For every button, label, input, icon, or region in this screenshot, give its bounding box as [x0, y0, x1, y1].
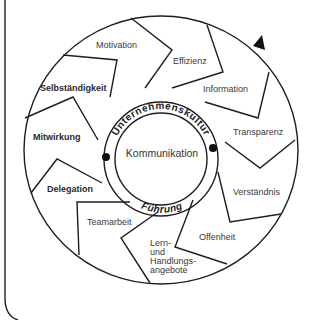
- segment-label-lern: Lern- und Handlungs- angebote: [150, 238, 199, 275]
- ring-label-bottom: Führung: [140, 200, 184, 215]
- ring-dot-right: [209, 144, 217, 152]
- segment-label-effizienz: Effizienz: [173, 56, 207, 66]
- segment-label-transparenz: Transparenz: [233, 127, 284, 137]
- segment-label-motivation: Motivation: [96, 40, 137, 50]
- frame-border: [5, 0, 18, 320]
- center-label: Kommunikation: [126, 147, 199, 159]
- diagram-canvas: Unternehmenskultur Führung Kommunikation…: [0, 0, 311, 320]
- segment-label-teamarbeit: Teamarbeit: [87, 217, 132, 227]
- ring-dot-left: [102, 153, 110, 161]
- segment-label-selbstaendigkeit: Selbständigkeit: [40, 83, 107, 93]
- direction-arrow-icon: [253, 35, 265, 50]
- ring-inner: [115, 113, 207, 205]
- cycle-diagram: Unternehmenskultur Führung Kommunikation…: [0, 0, 311, 320]
- segment-label-verstaendnis: Verständnis: [233, 187, 281, 197]
- segment-label-mitwirkung: Mitwirkung: [33, 132, 81, 142]
- segment-label-information: Information: [203, 84, 248, 94]
- segment-label-offenheit: Offenheit: [199, 232, 236, 242]
- segment-label-delegation: Delegation: [47, 184, 93, 194]
